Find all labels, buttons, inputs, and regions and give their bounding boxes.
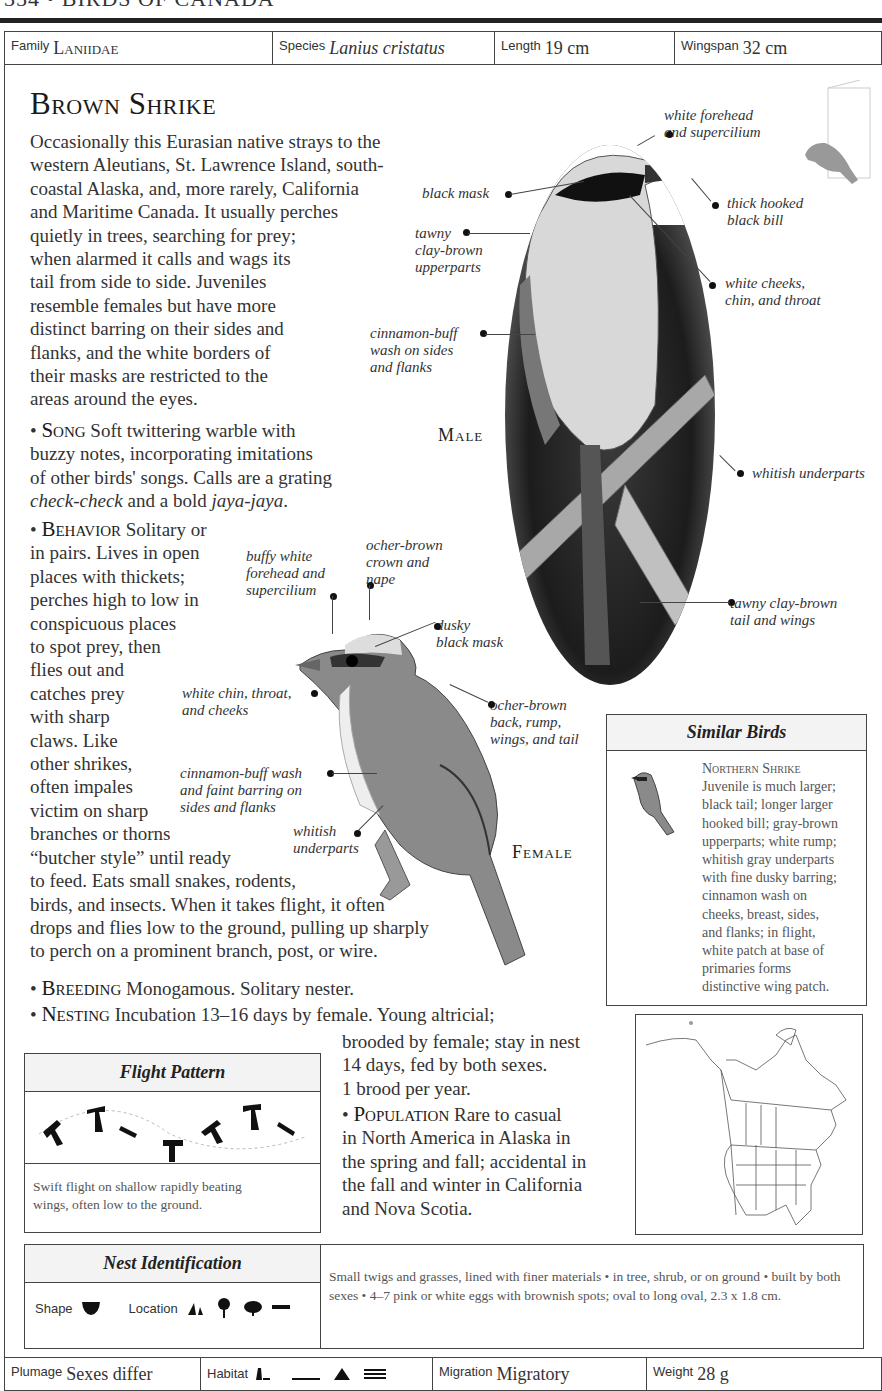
- annotation-female-crown: ocher-brown crown and nape: [366, 537, 443, 588]
- plumage-label: Plumage: [11, 1364, 62, 1379]
- north-america-map-icon: [636, 1015, 861, 1233]
- weight-value: 28 g: [697, 1364, 729, 1385]
- male-bird-photo: [505, 145, 715, 685]
- undulating-flight-icon: [25, 1092, 319, 1164]
- nesting-heading: Nesting: [41, 1002, 110, 1026]
- nesting-continued: brooded by female; stay in nest 14 days,…: [342, 1030, 632, 1100]
- behavior-heading: Behavior: [41, 517, 121, 541]
- song-mid: and a bold: [123, 490, 212, 511]
- cup-nest-icon: [81, 1300, 101, 1316]
- northern-shrike-icon: [629, 767, 679, 837]
- similar-birds-title: Similar Birds: [607, 715, 866, 751]
- nesting-text: Incubation 13–16 days by female. Young a…: [110, 1004, 495, 1025]
- bottom-info-bar: Plumage Sexes differ Habitat Migration M…: [4, 1357, 882, 1391]
- song-section: • Song Soft twittering warble with buzzy…: [30, 419, 410, 513]
- family-cell: Family Laniidae: [5, 32, 273, 64]
- song-call-1: check-check: [30, 490, 123, 511]
- female-label: Female: [512, 842, 573, 863]
- nest-id-title: Nest Identification: [25, 1245, 320, 1283]
- habitat-label: Habitat: [207, 1366, 248, 1381]
- pointer-line: [369, 585, 370, 620]
- annotation-female-flanks: cinnamon-buff wash and faint barring on …: [180, 765, 302, 816]
- annotation-male-cheeks: white cheeks, chin, and throat: [725, 275, 821, 309]
- water-icon: [364, 1370, 386, 1378]
- song-heading: Song: [41, 418, 85, 442]
- length-value: 19 cm: [545, 38, 590, 59]
- annotation-female-forehead: buffy white forehead and supercilium: [246, 548, 325, 599]
- similar-birds-description: Northern Shrike Juvenile is much larger;…: [702, 760, 862, 997]
- annotation-female-back: ocher-brown back, rump, wings, and tail: [490, 697, 579, 748]
- woodland-icon: [256, 1368, 270, 1380]
- family-label: Family: [11, 38, 49, 53]
- family-value: Laniidae: [53, 38, 118, 59]
- annotation-female-mask: dusky black mask: [436, 617, 503, 651]
- northern-shrike-thumbnail: [629, 767, 679, 841]
- species-label: Species: [279, 38, 325, 53]
- female-shrike-drawing: [290, 615, 550, 985]
- pointer-dot: [666, 131, 673, 138]
- annotation-male-mask: black mask: [422, 185, 489, 202]
- annotation-male-underparts: whitish underparts: [752, 465, 865, 482]
- nest-location-label: Location: [129, 1301, 178, 1316]
- flight-pattern-caption: Swift flight on shallow rapidly beating …: [33, 1178, 313, 1214]
- breeding-heading: Breeding: [41, 976, 121, 1000]
- pointer-line: [332, 773, 377, 774]
- species-value: Lanius cristatus: [329, 38, 445, 59]
- nest-description: Small twigs and grasses, lined with fine…: [321, 1245, 863, 1348]
- annotation-male-forehead: white forehead and supercilium: [664, 107, 761, 141]
- song-call-2: jaya-jaya: [211, 490, 283, 511]
- tree-icon: [214, 1297, 234, 1319]
- pointer-dot: [737, 470, 744, 477]
- pointer-line: [332, 596, 333, 634]
- pointer-line: [640, 602, 730, 603]
- range-map: [635, 1014, 863, 1235]
- plumage-value: Sexes differ: [66, 1364, 152, 1385]
- weight-cell: Weight 28 g: [647, 1358, 881, 1390]
- mountain-icon: [334, 1368, 350, 1380]
- migration-label: Migration: [439, 1364, 492, 1379]
- habitat-icons: [252, 1364, 402, 1382]
- wingspan-label: Wingspan: [681, 38, 739, 53]
- plumage-cell: Plumage Sexes differ: [5, 1358, 201, 1390]
- nest-identification-box: Nest Identification Shape Location Small…: [24, 1244, 864, 1349]
- length-label: Length: [501, 38, 541, 53]
- pointer-dot: [712, 202, 719, 209]
- migration-cell: Migration Migratory: [433, 1358, 647, 1390]
- top-rule: [0, 18, 882, 23]
- nesting-section: • Nesting Incubation 13–16 days by femal…: [30, 1003, 630, 1026]
- habitat-cell: Habitat: [201, 1358, 433, 1390]
- top-info-bar: Family Laniidae Species Lanius cristatus…: [4, 31, 882, 65]
- length-cell: Length 19 cm: [495, 32, 675, 64]
- nest-id-left: Nest Identification Shape Location: [25, 1245, 321, 1348]
- pointer-dot: [709, 282, 716, 289]
- wingspan-value: 32 cm: [743, 38, 788, 59]
- flight-pattern-box: Flight Pattern Swift flight on shallow r…: [24, 1053, 321, 1233]
- flight-pattern-diagram: [25, 1092, 320, 1164]
- flight-pattern-title: Flight Pattern: [25, 1054, 320, 1092]
- weight-label: Weight: [653, 1364, 693, 1379]
- nest-shape-label: Shape: [35, 1301, 73, 1316]
- grassland-icon: [292, 1378, 320, 1380]
- pointer-line: [485, 334, 535, 335]
- species-title: Brown Shrike: [30, 86, 216, 122]
- wingspan-cell: Wingspan 32 cm: [675, 32, 881, 64]
- migration-value: Migratory: [496, 1364, 569, 1385]
- pointer-line: [468, 233, 530, 234]
- pointer-dot: [434, 623, 441, 630]
- pointer-dot: [354, 830, 361, 837]
- annotation-female-chin: white chin, throat, and cheeks: [182, 685, 291, 719]
- song-end: .: [283, 490, 288, 511]
- nest-id-icons: Shape Location: [25, 1283, 320, 1333]
- female-bird-illustration: [290, 615, 550, 985]
- population-section: • Population Rare to casual in North Ame…: [342, 1103, 632, 1220]
- pointer-dot: [488, 701, 495, 708]
- annotation-male-bill: thick hooked black bill: [727, 195, 803, 229]
- annotation-female-underparts: whitish underparts: [293, 823, 359, 857]
- population-heading: Population: [353, 1102, 449, 1126]
- male-shrike-illustration: [505, 145, 715, 685]
- male-label: Male: [438, 425, 483, 446]
- shrub-icon: [242, 1299, 264, 1317]
- ground-shrub-icon: [186, 1299, 206, 1317]
- bird-silhouette-icon: [800, 80, 875, 190]
- ground-line-icon: [272, 1305, 290, 1311]
